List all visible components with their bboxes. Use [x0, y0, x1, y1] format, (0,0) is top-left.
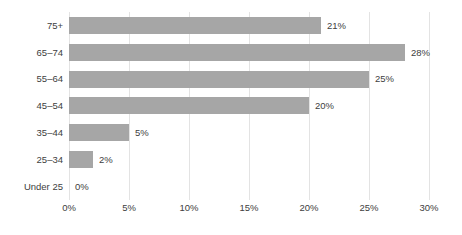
bar-value-label: 0%	[75, 182, 89, 192]
bar	[69, 97, 309, 114]
axis-tick-label: 15%	[239, 203, 258, 213]
category-label: 35–44	[37, 119, 63, 146]
category-label: 45–54	[37, 93, 63, 120]
category-label: 75+	[47, 12, 63, 39]
bar-value-label: 20%	[315, 101, 334, 111]
bar	[69, 71, 369, 88]
axis-tick-label: 20%	[299, 203, 318, 213]
category-label: 25–34	[37, 146, 63, 173]
axis-tick-label: 25%	[359, 203, 378, 213]
axis-tick-label: 5%	[122, 203, 136, 213]
bar-value-label: 28%	[411, 48, 430, 58]
bar-row: 21%	[69, 12, 429, 39]
axis-tick-label: 0%	[62, 203, 76, 213]
bar-chart: 21%28%25%20%5%2%0% 75+65–7455–6445–5435–…	[0, 0, 462, 235]
axis-tick-label: 30%	[419, 203, 438, 213]
bar-row: 20%	[69, 93, 429, 120]
bar-row: 25%	[69, 66, 429, 93]
category-label: Under 25	[24, 173, 63, 200]
bar-value-label: 21%	[327, 21, 346, 31]
bar	[69, 44, 405, 61]
value-axis: 0%5%10%15%20%25%30%	[0, 203, 462, 223]
bar	[69, 151, 93, 168]
bar-rows: 21%28%25%20%5%2%0%	[69, 12, 429, 200]
axis-tick-label: 10%	[179, 203, 198, 213]
gridline	[429, 12, 430, 200]
bar-row: 0%	[69, 173, 429, 200]
bar-row: 28%	[69, 39, 429, 66]
category-label: 55–64	[37, 66, 63, 93]
bar	[69, 17, 321, 34]
plot-area: 21%28%25%20%5%2%0%	[69, 12, 429, 200]
bar-value-label: 2%	[99, 155, 113, 165]
bar-value-label: 5%	[135, 128, 149, 138]
category-axis: 75+65–7455–6445–5435–4425–34Under 25	[0, 12, 63, 200]
bar	[69, 124, 129, 141]
category-label: 65–74	[37, 39, 63, 66]
bar-row: 2%	[69, 146, 429, 173]
bar-value-label: 25%	[375, 74, 394, 84]
bar-row: 5%	[69, 119, 429, 146]
